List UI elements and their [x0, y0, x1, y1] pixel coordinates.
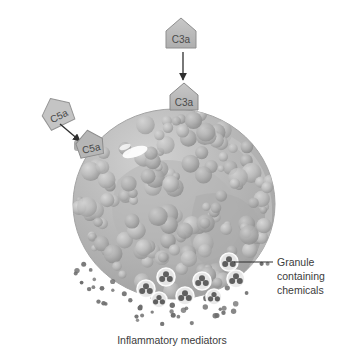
internal-sphere — [218, 165, 225, 172]
mediator-dot — [74, 272, 78, 276]
mediator-dot — [111, 289, 114, 292]
mediator-dot — [87, 287, 91, 291]
internal-sphere — [169, 244, 180, 255]
granule-chemical-dot — [222, 261, 228, 267]
internal-sphere — [199, 218, 210, 229]
mediator-dot — [231, 309, 236, 314]
internal-sphere — [112, 261, 122, 271]
internal-sphere — [248, 198, 259, 209]
mediator-dot — [221, 311, 225, 315]
mediator-dot — [181, 308, 186, 313]
internal-sphere — [195, 166, 212, 183]
granule-chemical-dot — [160, 299, 165, 304]
c5a-free-ligand: C5a — [37, 92, 77, 131]
granule-chemical-dot — [186, 295, 192, 301]
inflammatory-mediators-caption: Inflammatory mediators — [117, 334, 227, 346]
granule-chemical-dot — [139, 288, 145, 294]
internal-sphere — [215, 190, 227, 202]
internal-sphere — [77, 197, 97, 217]
mediator-dot — [104, 302, 108, 306]
internal-sphere — [242, 243, 257, 258]
internal-sphere — [195, 146, 208, 159]
internal-sphere — [100, 193, 114, 207]
internal-sphere — [220, 223, 232, 235]
internal-sphere — [230, 178, 240, 188]
granule — [151, 292, 167, 308]
mediator-dot — [233, 301, 239, 307]
mediator-dot — [151, 310, 154, 313]
granule-chemical-dot — [203, 280, 209, 286]
granule-chemical-dot — [167, 276, 173, 282]
mediator-dot — [89, 268, 93, 272]
granule-chemical-dot — [233, 273, 239, 279]
mediator-dot — [134, 315, 138, 319]
internal-sphere — [118, 270, 126, 278]
mediator-dot — [96, 299, 100, 303]
mediator-dot — [92, 285, 96, 289]
granule-label-line-1: Granule — [277, 256, 315, 268]
granule-chemical-dot — [153, 299, 158, 304]
internal-sphere — [239, 225, 259, 245]
granule — [157, 268, 175, 286]
internal-sphere — [136, 115, 155, 134]
granule-chemical-dot — [147, 288, 153, 294]
c5a-bound-ligand: C5a — [74, 128, 106, 159]
granule — [206, 289, 222, 305]
mediator-dot — [128, 298, 132, 302]
mediator-dot — [93, 278, 97, 282]
mediator-dot — [225, 285, 230, 290]
granule-chemical-dot — [226, 256, 232, 262]
internal-sphere — [219, 152, 229, 162]
c3a-free-ligand: C3a — [166, 18, 196, 48]
c5a-binding-arrow-icon — [60, 124, 80, 141]
internal-sphere — [125, 214, 140, 229]
c3a-bound-label: C3a — [175, 97, 194, 108]
c3a-free-label: C3a — [172, 34, 191, 45]
internal-sphere — [181, 251, 197, 267]
granule-label: Granule containing chemicals — [277, 256, 325, 296]
internal-sphere — [135, 239, 152, 256]
internal-sphere — [158, 252, 169, 263]
internal-sphere — [212, 278, 222, 288]
mediator-dot — [170, 303, 175, 308]
granule-chemical-dot — [182, 290, 188, 296]
internal-sphere — [228, 144, 237, 153]
granule — [176, 287, 194, 305]
internal-sphere — [177, 223, 193, 239]
mediator-dot — [100, 286, 105, 291]
mediator-dot — [222, 306, 227, 311]
mediator-dot — [177, 315, 181, 319]
internal-sphere — [261, 182, 273, 194]
internal-sphere — [154, 130, 164, 140]
internal-sphere — [162, 176, 179, 193]
diagram-canvas: C3a C3a C5a C5a Granule containing chemi… — [0, 0, 340, 361]
internal-sphere — [260, 207, 267, 214]
internal-sphere — [96, 160, 110, 174]
mediator-dot — [160, 322, 164, 326]
granule-chemical-dot — [143, 283, 149, 289]
granule-chemical-dot — [163, 271, 169, 277]
mediator-dot — [245, 291, 249, 295]
granule-chemical-dot — [156, 295, 161, 300]
granule-label-line-2: containing — [277, 270, 325, 282]
mediator-dot — [203, 304, 208, 309]
mediator-dot — [213, 313, 218, 318]
granule-chemical-dot — [208, 296, 213, 301]
internal-sphere — [93, 218, 102, 227]
internal-sphere — [176, 125, 189, 138]
granule-chemical-dot — [199, 275, 205, 281]
internal-sphere — [141, 169, 156, 184]
mast-cell — [72, 108, 277, 299]
granule-chemical-dot — [237, 278, 243, 284]
internal-sphere — [256, 218, 271, 233]
internal-sphere — [198, 244, 212, 258]
granule-chemical-dot — [195, 280, 201, 286]
mediator-dot — [81, 262, 86, 267]
c3a-bound-ligand: C3a — [170, 83, 198, 110]
granule-chemical-dot — [215, 296, 220, 301]
internal-sphere — [202, 203, 210, 211]
mediator-dot — [219, 308, 222, 311]
mediator-dot — [171, 313, 176, 318]
mediator-dot — [140, 314, 144, 318]
granule — [227, 270, 245, 288]
